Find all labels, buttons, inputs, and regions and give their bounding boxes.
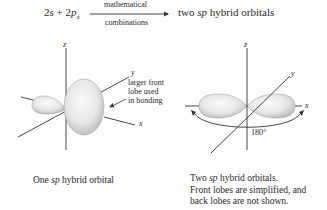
annotation-line-2: lobe used: [128, 87, 164, 96]
right-z-label: z: [244, 40, 247, 49]
equation-rhs: two sp hybrid orbitals: [178, 6, 274, 18]
right-caption-prefix: Two: [190, 173, 207, 183]
left-small-lobe: [32, 96, 66, 114]
left-y-label: y: [131, 68, 135, 77]
orbital-p-subscript: x: [77, 13, 80, 21]
right-caption-line-2: Front lobes are simplified, and: [190, 185, 306, 197]
right-x-label: x: [305, 101, 309, 110]
lobe-annotation: larger front lobe used in bonding: [128, 78, 164, 105]
left-caption: One sp hybrid orbital: [33, 175, 114, 187]
arrow-label-top: mathematical: [104, 0, 147, 9]
left-caption-sp: sp: [51, 175, 59, 185]
left-x-label: x: [139, 119, 143, 128]
left-orbital-figure: [18, 48, 135, 150]
right-caption-line-3: back lobes are not shown.: [190, 196, 306, 208]
plus-sign: +: [57, 6, 63, 18]
angle-label: 180°: [251, 128, 266, 137]
right-left-lobe: [199, 94, 247, 118]
right-caption: Two sp hybrid orbitals. Front lobes are …: [190, 173, 306, 208]
rhs-prefix: two: [178, 6, 195, 18]
rhs-suffix: hybrid orbitals: [210, 6, 274, 18]
arrow-label-bottom: combinations: [105, 18, 148, 27]
right-caption-suffix: hybrid orbitals.: [220, 173, 278, 183]
orbital-s: s: [50, 6, 54, 18]
left-caption-suffix: hybrid orbital: [62, 175, 114, 185]
equation-lhs: 2s + 2px: [44, 6, 80, 21]
annotation-arrow: [110, 99, 126, 107]
left-large-lobe: [64, 79, 104, 135]
right-caption-line-1: Two sp hybrid orbitals.: [190, 173, 306, 185]
left-x-axis-front: [104, 117, 135, 125]
rhs-sp: sp: [197, 6, 207, 18]
right-caption-sp: sp: [209, 173, 217, 183]
left-z-label: z: [63, 40, 66, 49]
right-orbital-figure: [185, 48, 304, 153]
right-right-lobe: [247, 94, 295, 118]
annotation-line-3: in bonding: [128, 96, 164, 105]
right-y-label: y: [291, 69, 295, 78]
left-caption-prefix: One: [33, 175, 49, 185]
annotation-line-1: larger front: [128, 78, 164, 87]
